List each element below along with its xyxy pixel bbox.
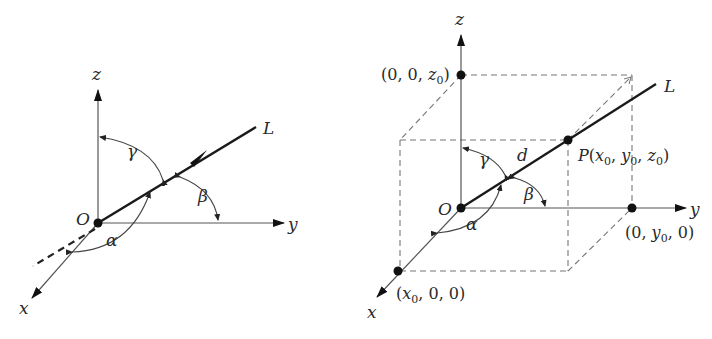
- point-z0-label: (0, 0, z0): [381, 65, 450, 87]
- origin-label: O: [438, 199, 452, 219]
- point-y0: [628, 204, 637, 213]
- origin-label: O: [76, 209, 90, 229]
- figure-canvas: z y x L O γ β α: [0, 0, 712, 339]
- x-axis-label: x: [367, 302, 377, 322]
- origin-point: [94, 219, 103, 228]
- alpha-label: α: [466, 214, 478, 234]
- point-y0-label: (0, y0, 0): [625, 223, 694, 245]
- x-axis-label: x: [19, 298, 29, 318]
- gamma-label: γ: [479, 149, 490, 169]
- alpha-label: α: [106, 230, 118, 250]
- line-L-extension: [33, 229, 95, 266]
- beta-label: β: [197, 186, 208, 206]
- left-panel: z y x L O γ β α: [19, 64, 298, 318]
- origin-point: [457, 204, 466, 213]
- z-axis-label: z: [91, 64, 102, 84]
- line-L-label: L: [262, 118, 274, 138]
- box-edge-top-left-diag: [400, 75, 461, 140]
- point-z0: [457, 71, 466, 80]
- y-axis-label: y: [287, 214, 298, 234]
- box-edge-top-right-diag: [568, 77, 631, 140]
- line-L: [98, 127, 256, 223]
- beta-label: β: [523, 184, 534, 204]
- point-x0-label: (x0, 0, 0): [396, 284, 465, 306]
- point-P: [564, 136, 573, 145]
- y-axis-label: y: [689, 199, 700, 219]
- box-edge-bottom-diag: [568, 208, 632, 271]
- line-L-label: L: [663, 76, 675, 96]
- point-x0: [394, 267, 403, 276]
- z-axis-label: z: [454, 9, 465, 29]
- point-P-label: P(x0, y0, z0): [577, 146, 669, 168]
- right-panel: z y x L d O (0, 0, z0) (0, y0, 0) (x0, 0…: [367, 9, 700, 322]
- distance-label: d: [517, 145, 528, 165]
- gamma-label: γ: [127, 141, 138, 161]
